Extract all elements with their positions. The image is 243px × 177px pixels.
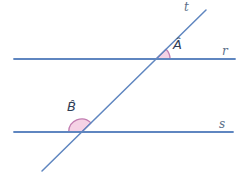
geometry-diagram: t r s Â B̂ xyxy=(0,0,243,177)
label-line-r: r xyxy=(222,44,228,58)
diagram-svg xyxy=(0,0,243,177)
label-line-s: s xyxy=(219,117,225,131)
label-line-t: t xyxy=(184,0,189,14)
label-angle-b: B̂ xyxy=(67,99,76,114)
line-t xyxy=(42,10,206,171)
label-angle-a: Â xyxy=(173,37,182,52)
